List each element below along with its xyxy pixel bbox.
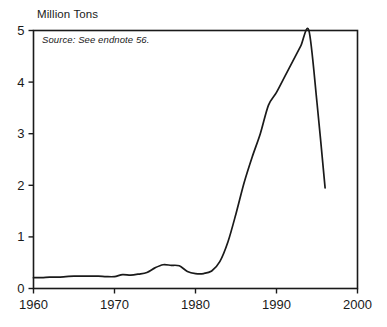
x-tick-label: 1980	[181, 297, 210, 312]
y-tick-label: 4	[17, 75, 24, 90]
data-line-series	[34, 28, 326, 277]
plot-frame	[34, 31, 358, 289]
x-tick-label: 2000	[343, 297, 372, 312]
y-axis-tick-labels: 012345	[17, 23, 24, 296]
y-tick-label: 5	[17, 23, 24, 38]
x-tick-label: 1990	[262, 297, 291, 312]
line-chart-plot: 012345 19601970198019902000	[0, 0, 387, 327]
y-tick-label: 2	[17, 178, 24, 193]
chart-figure: Million Tons Source: See endnote 56. 012…	[0, 0, 387, 327]
x-tick-label: 1970	[100, 297, 129, 312]
y-tick-label: 3	[17, 126, 24, 141]
y-tick-label: 1	[17, 229, 24, 244]
y-tick-label: 0	[17, 281, 24, 296]
x-axis-tick-labels: 19601970198019902000	[19, 297, 372, 312]
x-tick-label: 1960	[19, 297, 48, 312]
